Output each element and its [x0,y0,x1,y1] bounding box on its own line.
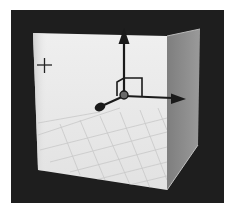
front-face [33,33,167,190]
gizmo-scene [0,0,234,211]
viewport-gizmo-illustration [0,0,234,211]
gizmo-center-icon[interactable] [120,91,128,99]
